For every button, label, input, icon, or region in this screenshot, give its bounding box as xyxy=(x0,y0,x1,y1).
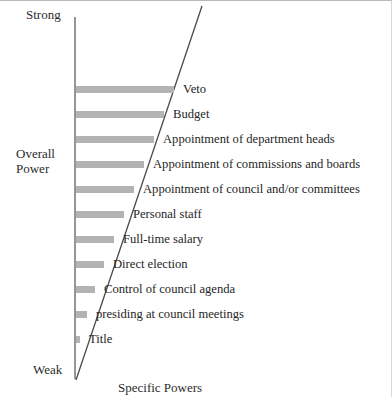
y-axis-title-line1: Overall xyxy=(16,146,55,161)
bar xyxy=(76,186,134,193)
axis-tick-strong: Strong xyxy=(26,7,61,22)
bar xyxy=(76,261,104,268)
bar xyxy=(76,111,164,118)
bar xyxy=(76,236,114,243)
bar xyxy=(76,336,80,343)
bar xyxy=(76,161,144,168)
bar-label: presiding at council meetings xyxy=(96,307,244,321)
y-axis-title: Overall Power xyxy=(16,146,55,176)
bar xyxy=(76,136,154,143)
bar-label: Budget xyxy=(173,107,209,121)
axis-tick-weak: Weak xyxy=(33,362,62,377)
bar-label: Control of council agenda xyxy=(104,282,235,296)
x-axis-title: Specific Powers xyxy=(118,380,202,395)
bar xyxy=(76,286,95,293)
bar-label: Appointment of council and/or committees xyxy=(143,182,360,196)
bar xyxy=(76,311,87,318)
bar-label: Appointment of commissions and boards xyxy=(153,157,360,171)
bar-label: Veto xyxy=(183,82,206,96)
bar-label: Title xyxy=(89,332,112,346)
y-axis-title-line2: Power xyxy=(16,161,55,176)
bar-label: Personal staff xyxy=(133,207,202,221)
bar-label: Full-time salary xyxy=(123,232,203,246)
plot-canvas xyxy=(0,1,392,397)
bar-label: Appointment of department heads xyxy=(163,132,335,146)
bar xyxy=(76,211,124,218)
power-diagram-figure: Strong Overall Power Weak Specific Power… xyxy=(0,0,392,397)
bar xyxy=(76,86,174,93)
bar-label: Direct election xyxy=(113,257,187,271)
